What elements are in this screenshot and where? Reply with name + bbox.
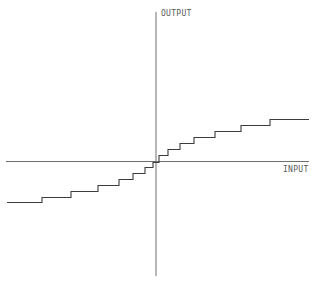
quantizer-diagram: OUTPUT INPUT — [0, 0, 315, 284]
output-axis-label: OUTPUT — [161, 9, 192, 18]
input-axis-label: INPUT — [283, 165, 309, 174]
